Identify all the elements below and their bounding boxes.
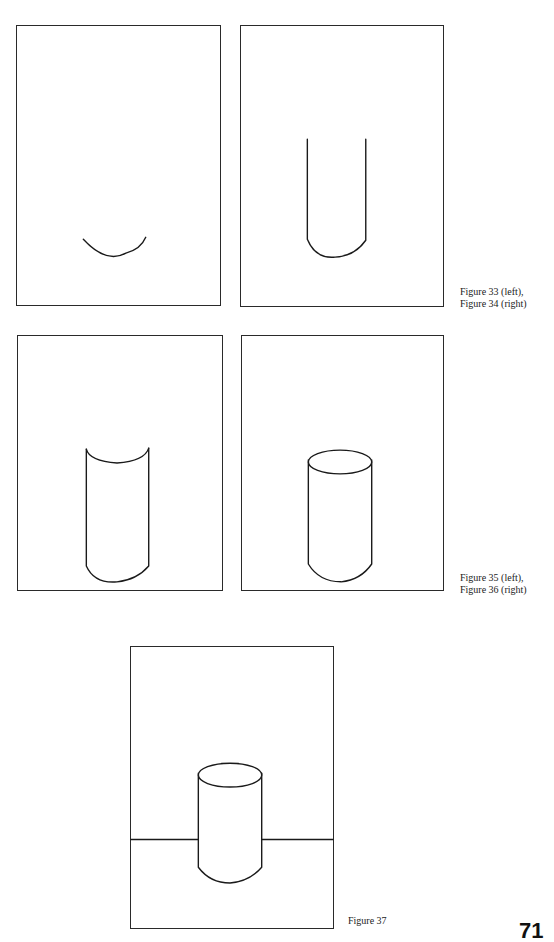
caption-figure-33-34: Figure 33 (left), Figure 34 (right) [460, 286, 527, 310]
caption-figure-37: Figure 37 [348, 915, 387, 927]
caption-figure-35-36: Figure 35 (left), Figure 36 (right) [460, 572, 527, 596]
figure-34-frame [240, 25, 444, 307]
u-shape-drawing [241, 26, 443, 306]
figure-36-frame [241, 335, 444, 591]
cylinder-on-horizon-drawing [131, 647, 333, 928]
caption-line-1: Figure 33 (left), [460, 286, 527, 298]
figure-35-frame [17, 335, 223, 591]
caption-line-1: Figure 37 [348, 915, 387, 927]
arc-curve-drawing [17, 26, 220, 305]
cylinder-drawing [242, 336, 443, 590]
page-number: 71 [519, 918, 543, 942]
figure-33-frame [16, 25, 221, 306]
figure-37-frame [130, 646, 334, 929]
caption-line-1: Figure 35 (left), [460, 572, 527, 584]
caption-line-2: Figure 34 (right) [460, 298, 527, 310]
caption-line-2: Figure 36 (right) [460, 584, 527, 596]
open-cylinder-drawing [18, 336, 222, 590]
